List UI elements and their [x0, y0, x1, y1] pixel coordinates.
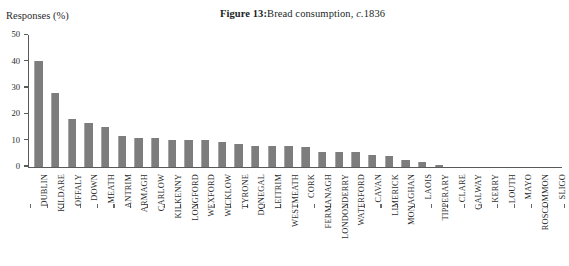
bar: [251, 146, 259, 167]
x-axis-label: CARLOW: [158, 174, 166, 211]
bar: [201, 140, 209, 166]
bar: [101, 127, 109, 166]
bar-slot: [385, 35, 393, 167]
bar-slot: [485, 35, 493, 167]
bar-slot: [218, 35, 226, 167]
x-axis-label: LOUTH: [509, 174, 517, 203]
bar-slot: [168, 35, 176, 167]
bar-slot: [284, 35, 292, 167]
bar: [268, 146, 276, 167]
y-axis-tick-label: 40: [11, 56, 20, 65]
x-axis-label: MEATH: [108, 174, 116, 204]
bar: [134, 138, 142, 167]
figure-caption-suffix: 1836: [364, 8, 385, 19]
bar-slot: [551, 35, 559, 167]
bar: [184, 140, 192, 166]
bar-slot: [518, 35, 526, 167]
x-axis-label: ROSCOMMON: [542, 174, 550, 230]
x-axis-tick: [564, 204, 565, 208]
bar-slot: [351, 35, 359, 167]
bar: [435, 165, 443, 167]
bar: [368, 155, 376, 167]
bar: [284, 146, 292, 167]
x-axis-label: LEITRIM: [275, 174, 283, 209]
y-axis-tick-label: 50: [11, 30, 20, 39]
bar-slot: [468, 35, 476, 167]
x-axis-label: KILKENNY: [175, 174, 183, 218]
bar: [151, 138, 159, 167]
bar: [318, 152, 326, 166]
bar-slot: [501, 35, 509, 167]
y-axis-tick-label: 20: [11, 109, 20, 118]
bars-group: [28, 35, 562, 167]
bar-slot: [234, 35, 242, 167]
x-axis-label: LONGFORD: [192, 174, 200, 221]
bar-slot: [435, 35, 443, 167]
bar-slot: [118, 35, 126, 167]
bar-slot: [535, 35, 543, 167]
bar-slot: [151, 35, 159, 167]
x-axis-label: ARMAGH: [141, 174, 149, 212]
bar-slot: [401, 35, 409, 167]
x-axis-label: KERRY: [492, 174, 500, 203]
x-axis-label: FERMANAGH: [325, 174, 333, 228]
x-axis-label: CAVAN: [375, 174, 383, 202]
bar-slot: [268, 35, 276, 167]
x-axis-label: WICKLOW: [225, 174, 233, 216]
x-axis-label: GALWAY: [475, 174, 483, 210]
x-axis-label: WEXFORD: [208, 174, 216, 216]
bar: [418, 162, 426, 167]
bar-slot: [201, 35, 209, 167]
x-axis-label: CORK: [308, 174, 316, 198]
bar-slot: [134, 35, 142, 167]
x-axis-label: WATERFORD: [358, 174, 366, 226]
x-axis-line: [28, 167, 562, 168]
bar-slot: [301, 35, 309, 167]
bar-slot: [251, 35, 259, 167]
bar: [301, 147, 309, 167]
x-axis-label: MONAGHAN: [408, 174, 416, 225]
y-axis-tick-label: 30: [11, 83, 20, 92]
x-axis-label: SLIGO: [559, 174, 567, 199]
bar-slot: [335, 35, 343, 167]
bar: [218, 142, 226, 167]
bar-slot: [34, 35, 42, 167]
bar: [385, 156, 393, 167]
bar-slot: [101, 35, 109, 167]
x-axis-labels: DUBLINKILDAREOFFALYDOWNMEATHANTRIMARMAGH…: [28, 174, 562, 234]
x-axis-label: LAOIS: [425, 174, 433, 199]
figure-title: Figure 13:Bread consumption, c.1836: [0, 8, 569, 19]
x-axis-label: LIMERICK: [392, 174, 400, 216]
figure-caption-italic: c.: [356, 8, 364, 19]
bar: [234, 144, 242, 166]
x-axis-label: DUBLIN: [41, 174, 49, 207]
bar: [351, 152, 359, 166]
figure-label: Figure 13:: [220, 8, 267, 19]
bar-slot: [418, 35, 426, 167]
y-axis-tick-label: 10: [11, 135, 20, 144]
x-axis-label: OFFALY: [75, 174, 83, 206]
x-axis-label: KILDARE: [58, 174, 66, 212]
bar: [51, 93, 59, 167]
x-axis-label: TYRONE: [242, 174, 250, 209]
x-axis-label: TIPPERARY: [442, 174, 450, 221]
x-axis-label: WESTMEATH: [292, 174, 300, 227]
figure-caption-prefix: Bread consumption,: [267, 8, 356, 19]
bar: [84, 123, 92, 166]
bar-slot: [451, 35, 459, 167]
x-axis-label: ANTRIM: [125, 174, 133, 208]
bar-slot: [184, 35, 192, 167]
bar-slot: [368, 35, 376, 167]
bar: [401, 160, 409, 167]
x-axis-label: CLARE: [459, 174, 467, 202]
bar-slot: [51, 35, 59, 167]
bar-slot: [84, 35, 92, 167]
bar-slot: [318, 35, 326, 167]
bar: [68, 119, 76, 166]
x-axis-label: DONEGAL: [258, 174, 266, 216]
bar-slot: [68, 35, 76, 167]
x-axis-label: DOWN: [91, 174, 99, 201]
bar-chart-plot-area: 01020304050: [28, 35, 562, 168]
bar: [34, 61, 42, 166]
x-axis-label: MAYO: [525, 174, 533, 199]
